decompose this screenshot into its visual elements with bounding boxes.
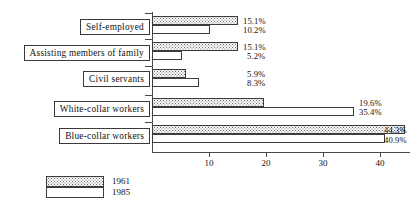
value-label-1985-self-employed: 10.2%	[243, 26, 266, 35]
x-axis-tick	[380, 152, 381, 157]
value-label-1985-white-collar-workers: 35.4%	[359, 108, 382, 117]
value-label-1985-assisting-members-of-family: 5.2%	[247, 52, 265, 61]
legend-label-1985: 1985	[112, 187, 130, 198]
y-axis-tick	[145, 13, 152, 14]
bar-1985-civil-servants	[152, 78, 199, 87]
category-label-white-collar-workers: White-collar workers	[54, 101, 150, 117]
x-axis-tick	[266, 152, 267, 157]
x-axis-tick-label: 20	[262, 158, 271, 168]
y-axis-tick	[145, 95, 152, 96]
x-axis-tick	[323, 152, 324, 157]
x-axis-tick-label: 30	[319, 158, 328, 168]
category-label-blue-collar-workers: Blue-collar workers	[59, 128, 150, 144]
value-label-1961-blue-collar-workers: 44.3%	[384, 126, 407, 135]
legend-label-1961: 1961	[112, 176, 130, 187]
bar-1961-blue-collar-workers	[152, 125, 405, 134]
bar-1985-blue-collar-workers	[152, 134, 385, 143]
value-label-1985-blue-collar-workers: 40.9%	[384, 136, 407, 145]
x-axis-tick-label: 40	[376, 158, 385, 168]
category-label-civil-servants: Civil servants	[83, 71, 150, 87]
x-axis	[152, 152, 410, 153]
x-axis-tick	[209, 152, 210, 157]
bar-1961-civil-servants	[152, 69, 186, 78]
bar-1961-self-employed	[152, 16, 238, 25]
y-axis-tick	[145, 39, 152, 40]
legend-swatch-1961	[46, 176, 104, 187]
bar-1961-assisting-members-of-family	[152, 42, 238, 51]
bar-1961-white-collar-workers	[152, 98, 264, 107]
bar-1985-self-employed	[152, 25, 210, 34]
y-axis-tick	[145, 66, 152, 67]
bar-1985-white-collar-workers	[152, 107, 354, 116]
value-label-1985-civil-servants: 8.3%	[247, 79, 265, 88]
y-axis-tick	[145, 122, 152, 123]
legend-swatch-1985	[46, 187, 104, 198]
x-axis-tick-label: 10	[205, 158, 214, 168]
category-label-self-employed: Self-employed	[80, 19, 150, 35]
bar-1985-assisting-members-of-family	[152, 51, 182, 60]
bar-chart: Self-employed Assisting members of famil…	[0, 0, 415, 214]
category-label-assisting-members-of-family: Assisting members of family	[24, 45, 150, 61]
